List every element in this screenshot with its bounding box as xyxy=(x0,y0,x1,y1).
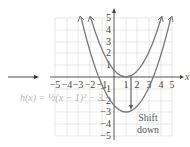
svg-text:−2: −2 xyxy=(85,79,96,90)
formula-label: h(x) = ½(x − 1)² − 3 xyxy=(20,92,103,104)
svg-text:−5: −5 xyxy=(50,79,61,90)
svg-text:3: 3 xyxy=(106,36,111,47)
shift-down-arrow-icon xyxy=(129,77,133,110)
shift-label-line1: Shift xyxy=(138,112,158,123)
graph: x −5−4 −3−2 −11 23 45 54 32 1−1 −2−3 −4−… xyxy=(0,0,190,147)
svg-text:1: 1 xyxy=(124,79,129,90)
axes xyxy=(50,8,184,140)
svg-text:−3: −3 xyxy=(73,79,84,90)
svg-text:−3: −3 xyxy=(100,106,111,117)
svg-text:2: 2 xyxy=(106,47,111,58)
svg-text:2: 2 xyxy=(135,79,140,90)
svg-text:−5: −5 xyxy=(100,130,111,141)
pointer-arrow-icon xyxy=(8,75,39,79)
svg-text:−4: −4 xyxy=(62,79,73,90)
svg-text:5: 5 xyxy=(106,12,111,23)
shift-label-line2: down xyxy=(137,124,159,135)
svg-text:5: 5 xyxy=(170,79,175,90)
svg-text:4: 4 xyxy=(106,24,111,35)
x-axis-label: x xyxy=(184,71,190,82)
x-tick-labels: −5−4 −3−2 −11 23 45 xyxy=(50,79,175,90)
svg-text:−4: −4 xyxy=(100,118,111,129)
svg-text:4: 4 xyxy=(159,79,164,90)
